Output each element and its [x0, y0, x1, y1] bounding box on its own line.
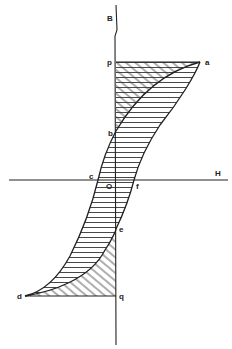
label-origin: O [106, 182, 112, 191]
label-point-e: e [119, 225, 124, 234]
label-point-b: b [108, 129, 113, 138]
label-point-q: q [119, 292, 124, 301]
label-point-f: f [136, 182, 139, 191]
label-point-p: p [107, 58, 112, 67]
label-point-a: a [205, 58, 210, 67]
label-b-axis: B [107, 14, 113, 23]
hysteresis-diagram: B H O p a b c f e d q [0, 0, 232, 349]
label-point-d: d [17, 292, 22, 301]
label-point-c: c [89, 172, 94, 181]
label-h-axis: H [215, 169, 221, 178]
